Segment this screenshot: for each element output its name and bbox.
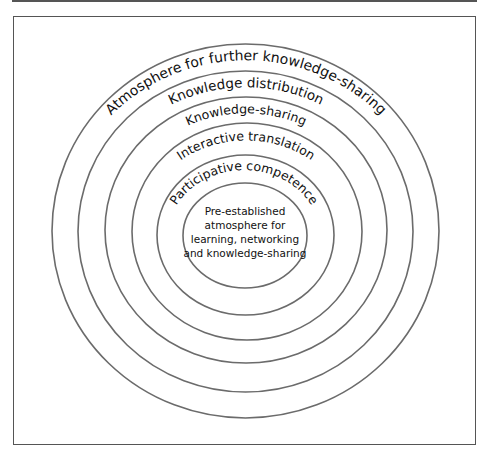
concentric-diagram: Participative competence Interactive tra…	[0, 0, 489, 458]
core-text-line-4: and knowledge-sharing	[184, 247, 307, 259]
core-text-line-1: Pre-established	[205, 205, 286, 217]
core-text-line-2: atmosphere for	[205, 219, 286, 231]
core-text-line-3: learning, networking	[191, 233, 299, 245]
ring-label-knowledge-sharing: Knowledge-sharing	[183, 101, 309, 128]
